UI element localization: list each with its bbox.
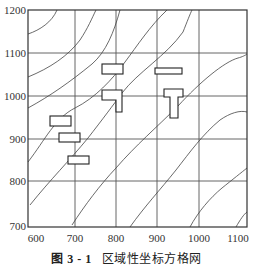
- svg-text:1200: 1200: [4, 4, 27, 16]
- building-rect-5: [68, 156, 89, 164]
- svg-text:900: 900: [10, 133, 27, 145]
- building-rect-1: [102, 64, 123, 74]
- svg-text:1100: 1100: [4, 47, 26, 59]
- svg-text:600: 600: [28, 232, 45, 244]
- building-rect-4: [59, 133, 80, 142]
- building-footprints: [50, 64, 183, 164]
- svg-text:700: 700: [10, 220, 27, 232]
- building-l-shape: [102, 90, 122, 112]
- caption-title: 区域性坐标方格网: [102, 252, 202, 266]
- figure-caption: 图 3 - 1区域性坐标方格网: [0, 249, 253, 267]
- caption-number: 图 3 - 1: [51, 252, 92, 266]
- svg-text:800: 800: [10, 175, 27, 187]
- coordinate-grid-figure: 1200 1100 1000 900 800 700 600 700 800 9…: [0, 0, 253, 270]
- building-rect-2: [155, 68, 182, 74]
- svg-text:1000: 1000: [4, 90, 27, 102]
- svg-text:800: 800: [108, 232, 125, 244]
- svg-text:900: 900: [149, 232, 166, 244]
- y-axis-labels: 1200 1100 1000 900 800 700: [4, 4, 27, 232]
- svg-text:700: 700: [67, 232, 84, 244]
- svg-text:1000: 1000: [188, 232, 211, 244]
- building-rect-3: [50, 116, 71, 126]
- svg-text:1100: 1100: [227, 232, 249, 244]
- x-axis-labels: 600 700 800 900 1000 1100: [28, 232, 250, 244]
